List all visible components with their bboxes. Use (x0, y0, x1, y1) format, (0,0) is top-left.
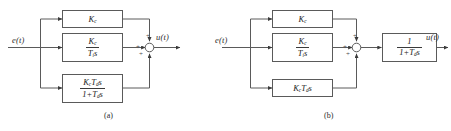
a-block-derivative-fraction: KcTds 1+Tds (80, 78, 105, 99)
a-output-label: u(t) (156, 33, 169, 42)
a-block-integral: Kc Tis (63, 34, 123, 62)
b-integral-denominator: Tis (296, 47, 310, 58)
a-sign-top: + (146, 33, 150, 40)
a-block-proportional: Kc (63, 11, 123, 28)
a-block-derivative: KcTds 1+Tds (63, 75, 123, 103)
a-caption: (a) (104, 112, 113, 120)
b-block-integral: Kc Tis (273, 34, 333, 62)
a-integral-denominator: Tis (86, 47, 100, 58)
b-sign-bottom: + (346, 51, 350, 58)
b-summing-circle (352, 43, 361, 52)
figure-container: e(t) u(t) Kc Kc Tis KcTds 1+Tds + + + (a… (0, 0, 451, 131)
b-block-proportional-text: Kc (298, 14, 306, 24)
b-filter-numerator: 1 (405, 37, 413, 46)
b-block-derivative-text: KcTds (293, 83, 312, 93)
a-block-proportional-text: Kc (88, 14, 96, 24)
b-block-proportional: Kc (273, 11, 333, 28)
a-integral-numerator: Kc (86, 37, 98, 47)
b-block-derivative: KcTds (273, 80, 333, 97)
b-input-label: e(t) (215, 36, 228, 45)
b-block-integral-fraction: Kc Tis (296, 37, 310, 58)
a-derivative-numerator: KcTds (81, 78, 104, 88)
b-block-filter: 1 1+Tds (383, 34, 437, 62)
b-sign-top: + (353, 33, 357, 40)
a-sign-bottom: + (139, 51, 143, 58)
b-caption: (b) (324, 112, 333, 120)
a-input-label: e(t) (12, 36, 25, 45)
a-derivative-denominator: 1+Tds (80, 88, 105, 99)
a-block-integral-fraction: Kc Tis (86, 37, 100, 58)
a-summing-circle (145, 43, 154, 52)
b-integral-numerator: Kc (296, 37, 308, 47)
b-block-filter-fraction: 1 1+Tds (397, 37, 422, 58)
b-filter-denominator: 1+Tds (397, 47, 422, 58)
